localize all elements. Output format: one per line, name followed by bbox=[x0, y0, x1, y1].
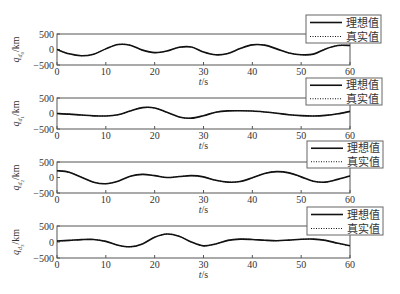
y-tick-label: 500 bbox=[39, 93, 54, 104]
x-tick-label: 60 bbox=[345, 66, 355, 77]
x-tick-label: 10 bbox=[101, 259, 111, 270]
y-tick-label: −500 bbox=[33, 124, 54, 135]
legend-label-ideal: 理想值 bbox=[346, 78, 379, 91]
y-tick-label: −500 bbox=[33, 253, 54, 264]
x-tick-label: 20 bbox=[150, 259, 160, 270]
x-tick-label: 0 bbox=[55, 194, 60, 205]
chart-svg: 0102030405060−5000500t/sqd0/km理想值真实值0102… bbox=[0, 0, 400, 294]
series-actual-line bbox=[57, 171, 350, 184]
legend-label-ideal: 理想值 bbox=[346, 16, 379, 29]
x-tick-label: 10 bbox=[101, 66, 111, 77]
x-tick-label: 60 bbox=[345, 194, 355, 205]
x-tick-label: 40 bbox=[247, 194, 257, 205]
legend: 理想值真实值 bbox=[307, 207, 383, 235]
x-axis-label: t/s bbox=[199, 204, 209, 215]
y-axis-label: qd0/km bbox=[10, 36, 25, 62]
chart-panel-2: 0102030405060−5000500t/sqd1/km理想值真实值 bbox=[10, 78, 382, 151]
plot-frame bbox=[57, 226, 350, 258]
y-tick-label: 0 bbox=[49, 44, 54, 55]
x-axis-label: t/s bbox=[199, 269, 209, 280]
x-axis-label: t/s bbox=[199, 140, 209, 151]
x-tick-label: 50 bbox=[296, 259, 306, 270]
legend: 理想值真实值 bbox=[307, 141, 383, 168]
y-tick-label: 0 bbox=[49, 172, 54, 183]
x-tick-label: 50 bbox=[296, 130, 306, 141]
x-tick-label: 50 bbox=[296, 66, 306, 77]
series-actual-line bbox=[57, 44, 350, 55]
legend: 理想值真实值 bbox=[306, 78, 382, 105]
y-tick-label: −500 bbox=[33, 188, 54, 199]
x-tick-label: 0 bbox=[55, 66, 60, 77]
x-tick-label: 20 bbox=[150, 66, 160, 77]
legend-label-actual: 真实值 bbox=[346, 30, 379, 43]
x-tick-label: 60 bbox=[345, 130, 355, 141]
series-ideal-line bbox=[57, 234, 350, 247]
series-ideal-line bbox=[57, 44, 350, 55]
legend: 理想值真实值 bbox=[306, 15, 381, 43]
legend-label-actual: 真实值 bbox=[347, 155, 380, 168]
y-tick-label: 0 bbox=[49, 108, 54, 119]
x-axis-label: t/s bbox=[199, 76, 209, 87]
y-tick-label: −500 bbox=[33, 60, 54, 71]
x-tick-label: 50 bbox=[296, 194, 306, 205]
x-tick-label: 40 bbox=[247, 130, 257, 141]
series-ideal-line bbox=[57, 107, 350, 118]
y-axis-label: qd3/km bbox=[10, 229, 25, 255]
x-tick-label: 10 bbox=[101, 194, 111, 205]
chart-panel-3: 0102030405060−5000500t/sqd2/km理想值真实值 bbox=[10, 141, 383, 215]
y-axis-label: qd1/km bbox=[10, 100, 25, 126]
x-tick-label: 20 bbox=[150, 194, 160, 205]
chart-panel-1: 0102030405060−5000500t/sqd0/km理想值真实值 bbox=[10, 15, 381, 87]
y-tick-label: 500 bbox=[39, 221, 54, 232]
x-tick-label: 0 bbox=[55, 259, 60, 270]
legend-label-actual: 真实值 bbox=[346, 92, 379, 105]
x-tick-label: 0 bbox=[55, 130, 60, 141]
y-tick-label: 500 bbox=[39, 157, 54, 168]
legend-label-ideal: 理想值 bbox=[347, 208, 380, 221]
legend-label-actual: 真实值 bbox=[347, 222, 380, 235]
x-tick-label: 20 bbox=[150, 130, 160, 141]
y-tick-label: 0 bbox=[49, 237, 54, 248]
x-tick-label: 40 bbox=[247, 259, 257, 270]
x-tick-label: 60 bbox=[345, 259, 355, 270]
y-tick-label: 500 bbox=[39, 29, 54, 40]
x-tick-label: 10 bbox=[101, 130, 111, 141]
chart-figure: 0102030405060−5000500t/sqd0/km理想值真实值0102… bbox=[0, 0, 400, 294]
chart-panel-4: 0102030405060−5000500t/sqd3/km理想值真实值 bbox=[10, 207, 383, 280]
y-axis-label: qd2/km bbox=[10, 164, 25, 190]
legend-label-ideal: 理想值 bbox=[347, 141, 380, 154]
x-tick-label: 40 bbox=[247, 66, 257, 77]
